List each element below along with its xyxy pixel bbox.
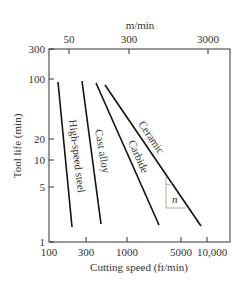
- y-tick-100: 100: [29, 73, 46, 85]
- x2-axis-label: m/min: [126, 19, 155, 31]
- y-tick-20: 20: [34, 133, 46, 145]
- tool-life-chart: 300 100 20 10 5 1 100 300 1000 5000 10,0…: [0, 0, 245, 289]
- x2-tick-50: 50: [64, 33, 76, 45]
- y-tick-10: 10: [34, 154, 46, 166]
- y-axis-label: Tool life (min): [11, 113, 24, 178]
- x2-tick-300: 300: [121, 33, 138, 45]
- label-high-speed-steel: High-speed steel: [67, 119, 88, 194]
- label-carbide: Carbide: [126, 138, 151, 175]
- label-cast-alloy: Cast alloy: [93, 128, 113, 174]
- line-ceramic: [105, 85, 201, 226]
- x-tick-10000: 10,000: [197, 246, 228, 258]
- slope-label: n: [172, 193, 178, 205]
- x-axis-label: Cutting speed (ft/min): [90, 261, 188, 274]
- x2-tick-3000: 3000: [197, 33, 220, 45]
- y-ticks: [49, 49, 54, 242]
- x-tick-100: 100: [41, 246, 58, 258]
- x-tick-1000: 1000: [116, 246, 139, 258]
- x2-ticks: [69, 49, 208, 54]
- x-tick-5000: 5000: [170, 246, 193, 258]
- x-ticks: [86, 237, 207, 242]
- y-tick-5: 5: [40, 181, 46, 193]
- x-tick-300: 300: [78, 246, 95, 258]
- line-high-speed-steel: [58, 82, 72, 227]
- y-tick-300: 300: [29, 43, 46, 55]
